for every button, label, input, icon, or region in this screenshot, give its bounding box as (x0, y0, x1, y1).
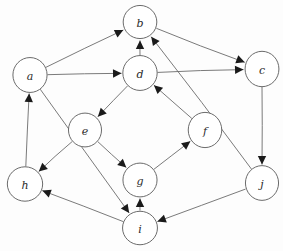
node-label-h: h (21, 179, 28, 192)
node-a[interactable]: a (13, 58, 47, 93)
arrowhead-a-to-i-icon (121, 204, 129, 213)
arrowhead-d-to-c-icon (235, 66, 244, 74)
arrowhead-g-to-f-icon (181, 141, 190, 150)
node-c[interactable]: c (245, 51, 279, 86)
node-label-b: b (136, 17, 143, 30)
arrowhead-h-to-a-icon (25, 93, 33, 102)
edge-i-to-h (42, 191, 123, 222)
nodes-layer: abcdefghij (7, 5, 279, 244)
graph-canvas: abcdefghij (0, 0, 283, 251)
node-e[interactable]: e (68, 113, 101, 147)
arrowhead-e-to-g-icon (117, 159, 126, 168)
edge-d-to-c (157, 70, 243, 73)
arrowhead-j-to-b-icon (151, 37, 159, 46)
node-label-i: i (138, 223, 142, 236)
arrowhead-i-to-g-icon (136, 199, 144, 208)
edge-b-to-c (156, 28, 244, 62)
node-g[interactable]: g (123, 163, 157, 197)
arrowhead-d-to-b-icon (136, 41, 144, 50)
node-label-g: g (136, 175, 143, 188)
arrowhead-f-to-d-icon (154, 85, 163, 94)
edge-a-to-d (48, 73, 122, 74)
arrowhead-a-to-d-icon (113, 69, 122, 77)
node-label-c: c (259, 64, 265, 77)
node-h[interactable]: h (7, 167, 42, 201)
node-label-e: e (82, 125, 89, 138)
node-j[interactable]: j (245, 166, 278, 201)
node-f[interactable]: f (188, 112, 222, 147)
arrowhead-c-to-j-icon (258, 156, 266, 165)
node-d[interactable]: d (123, 56, 157, 91)
edge-j-to-i (157, 189, 245, 222)
node-label-a: a (27, 70, 34, 83)
node-label-d: d (136, 68, 143, 81)
edge-h-to-a (26, 93, 29, 166)
edge-j-to-b (151, 37, 251, 169)
edge-a-to-b (46, 30, 124, 67)
node-i[interactable]: i (123, 211, 158, 245)
graph-diagram: abcdefghij (0, 0, 283, 251)
node-b[interactable]: b (123, 5, 157, 38)
